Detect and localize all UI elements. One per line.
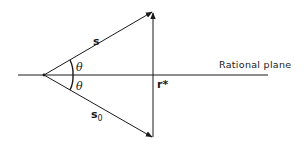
- vector-s0-arrow: [44, 75, 152, 137]
- angle-arc-upper: [70, 60, 73, 75]
- origin-point: [43, 74, 46, 77]
- label-vector-s0: s0: [91, 108, 103, 123]
- label-angle-lower: θ: [76, 80, 83, 93]
- label-rational-plane: Rational plane: [219, 59, 291, 70]
- label-vector-s: s: [93, 35, 100, 48]
- label-point-r-star: r*: [157, 78, 168, 91]
- label-angle-upper: θ: [76, 61, 83, 74]
- angle-arc-lower: [70, 75, 73, 90]
- diagram-canvas: s s0 θ θ r* Rational plane: [0, 0, 308, 148]
- label-vector-s0-subscript: 0: [98, 114, 103, 123]
